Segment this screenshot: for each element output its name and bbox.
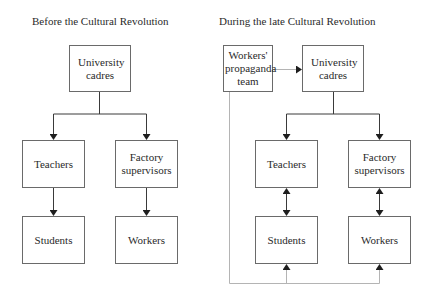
node-label: Workers [361,234,398,247]
right-factory-supervisors-box: Factory supervisors [348,140,411,188]
node-label: Teachers [34,158,73,171]
node-label: Teachers [267,158,306,171]
left-students-box: Students [22,216,85,264]
node-label: University cadres [78,56,122,82]
node-label: Workers [128,234,165,247]
node-label: Factory supervisors [355,151,405,177]
left-factory-supervisors-box: Factory supervisors [115,140,178,188]
node-label: University cadres [311,56,355,82]
node-label: Students [35,234,73,247]
left-teachers-box: Teachers [22,140,85,188]
left-diagram-title: Before the Cultural Revolution [32,15,169,27]
left-workers-box: Workers [115,216,178,264]
node-label: Students [268,234,306,247]
node-label: Workers' propaganda team [225,49,271,88]
right-workers-box: Workers [348,216,411,264]
right-university-cadres-box: University cadres [302,45,364,92]
left-university-cadres-box: University cadres [69,45,131,92]
right-workers-propaganda-team-box: Workers' propaganda team [223,45,273,92]
right-students-box: Students [255,216,318,264]
right-teachers-box: Teachers [255,140,318,188]
right-diagram-title: During the late Cultural Revolution [219,15,375,27]
node-label: Factory supervisors [122,151,172,177]
